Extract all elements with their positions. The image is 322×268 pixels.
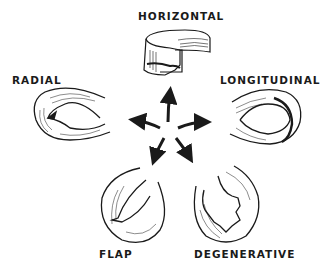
label-radial: RADIAL xyxy=(12,74,62,86)
flap-tear-drawing xyxy=(101,168,164,242)
label-longitudinal: LONGITUDINAL xyxy=(220,74,320,86)
arrow-down-right-icon xyxy=(176,138,190,158)
arrow-down-left-icon xyxy=(154,138,164,160)
label-horizontal: HORIZONTAL xyxy=(138,10,224,22)
label-flap: FLAP xyxy=(99,248,133,260)
longitudinal-tear-drawing xyxy=(230,90,301,144)
center-arrows xyxy=(134,92,206,160)
radial-tear-drawing xyxy=(34,88,110,140)
arrow-right-icon xyxy=(178,122,206,128)
degenerative-tear-drawing xyxy=(194,166,258,242)
label-degenerative: DEGENERATIVE xyxy=(194,248,295,260)
arrow-left-icon xyxy=(134,120,160,128)
diagram-illustration xyxy=(0,0,322,268)
arrow-up-icon xyxy=(168,92,170,122)
horizontal-tear-drawing xyxy=(144,30,210,75)
diagram-canvas: HORIZONTAL RADIAL LONGITUDINAL FLAP DEGE… xyxy=(0,0,322,268)
